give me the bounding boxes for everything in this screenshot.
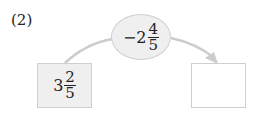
operation-whole: 2 [136,28,146,47]
start-whole: 3 [53,76,63,95]
operation-sign: − [123,28,136,47]
start-value: 3 2 5 [53,70,76,101]
operation-fraction: 4 5 [148,22,160,53]
start-fraction: 2 5 [64,70,76,101]
start-denominator: 5 [65,86,75,101]
answer-box[interactable] [191,63,246,108]
operation-value: − 2 4 5 [123,22,159,53]
operation-oval: − 2 4 5 [111,14,171,60]
start-value-box: 3 2 5 [37,63,92,108]
operation-denominator: 5 [149,38,159,53]
